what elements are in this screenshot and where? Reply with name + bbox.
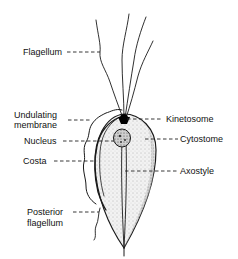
label-flagellum: Flagellum [23, 47, 62, 57]
diagram-canvas: Flagellum Undulating membrane Nucleus Co… [0, 0, 238, 259]
label-posterior-flagellum-line2: flagellum [27, 218, 63, 228]
label-posterior-flagellum-line1: Posterior [27, 207, 63, 217]
label-nucleus: Nucleus [24, 136, 57, 146]
label-axostyle: Axostyle [180, 166, 214, 176]
nucleus [114, 129, 131, 147]
label-cytostome: Cytostome [180, 134, 223, 144]
label-undulating-membrane-line2: membrane [14, 120, 57, 130]
label-kinetosome: Kinetosome [166, 114, 214, 124]
posterior-flagellum [94, 208, 100, 240]
trichomonas-diagram: Flagellum Undulating membrane Nucleus Co… [0, 0, 238, 259]
label-costa: Costa [23, 156, 47, 166]
label-undulating-membrane-line1: Undulating [14, 110, 57, 120]
anterior-flagella [96, 14, 153, 118]
